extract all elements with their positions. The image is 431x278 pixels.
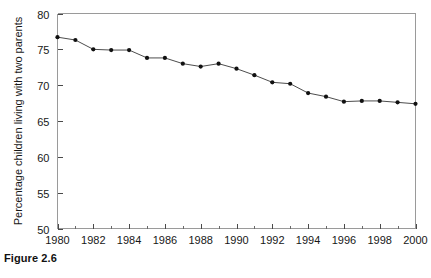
x-tick-label: 1982 — [81, 234, 105, 246]
data-point — [181, 62, 185, 66]
y-tick-label: 65 — [37, 116, 49, 128]
data-point — [360, 99, 364, 103]
x-tick-label: 1996 — [332, 234, 356, 246]
data-point — [396, 100, 400, 104]
y-axis-title: Percentage children living with two pare… — [12, 16, 24, 225]
y-tick-label: 75 — [37, 44, 49, 56]
data-point — [252, 73, 256, 77]
figure-container: 50556065707580 1980198219841986198819901… — [0, 0, 431, 278]
data-point — [109, 48, 113, 52]
y-tick-label: 60 — [37, 152, 49, 164]
data-point — [199, 64, 203, 68]
data-point — [145, 56, 149, 60]
data-point — [91, 47, 95, 51]
x-tick-label: 1994 — [296, 234, 320, 246]
data-point — [342, 100, 346, 104]
data-point — [306, 91, 310, 95]
data-point — [324, 95, 328, 99]
y-tick-label: 80 — [37, 9, 49, 21]
x-tick-label: 1990 — [224, 234, 248, 246]
data-point — [234, 67, 238, 71]
data-point — [217, 62, 221, 66]
data-point — [163, 56, 167, 60]
y-tick-label: 55 — [37, 188, 49, 200]
x-tick-label: 2000 — [403, 234, 427, 246]
x-tick-label: 1998 — [367, 234, 391, 246]
data-point — [413, 102, 417, 106]
line-chart: 50556065707580 1980198219841986198819901… — [0, 0, 431, 278]
data-point — [73, 38, 77, 42]
x-tick-label: 1986 — [153, 234, 177, 246]
figure-caption: Figure 2.6 — [4, 252, 57, 264]
data-point — [270, 80, 274, 84]
x-tick-label: 1988 — [188, 234, 212, 246]
data-point — [378, 99, 382, 103]
y-tick-label: 70 — [37, 80, 49, 92]
data-point — [288, 82, 292, 86]
data-point — [55, 35, 59, 39]
x-tick-label: 1992 — [260, 234, 284, 246]
x-tick-label: 1984 — [117, 234, 141, 246]
x-tick-label: 1980 — [45, 234, 69, 246]
data-point — [127, 48, 131, 52]
